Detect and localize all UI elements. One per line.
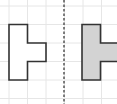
reflected-shape: [82, 25, 117, 81]
reflection-diagram: [0, 0, 117, 104]
grid-canvas: [0, 0, 117, 104]
original-shape: [9, 25, 46, 81]
